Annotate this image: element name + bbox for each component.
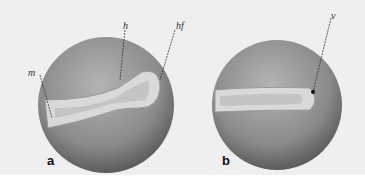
panel-label-a: a [47, 153, 54, 168]
panel-label-b: b [222, 153, 230, 168]
annotation-v: v [331, 10, 335, 21]
annotation-hf: hf [176, 20, 184, 31]
figure-panel: m h hf v a b [0, 0, 365, 175]
annotation-m: m [28, 67, 35, 78]
annotation-h: h [123, 20, 128, 31]
bottom-margin [0, 175, 365, 183]
